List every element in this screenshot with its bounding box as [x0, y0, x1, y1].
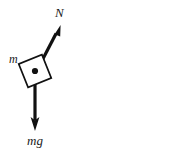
- weight-force-label: mg: [27, 134, 43, 147]
- diagram-canvas: [0, 0, 173, 155]
- mass-label: m: [9, 53, 18, 65]
- point-of-application-dot: [32, 68, 38, 74]
- free-body-diagram-figure: N m mg: [0, 0, 173, 155]
- normal-force-label: N: [55, 6, 64, 19]
